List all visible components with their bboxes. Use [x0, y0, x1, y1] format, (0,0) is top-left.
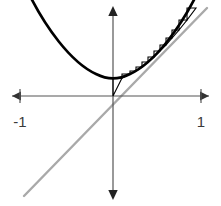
- figure-background: [0, 0, 221, 206]
- x-axis-label-minus-one: -1: [13, 113, 26, 130]
- math-figure: -1 1: [0, 0, 221, 206]
- x-axis-label-one: 1: [197, 113, 205, 130]
- figure-container: -1 1: [0, 0, 221, 206]
